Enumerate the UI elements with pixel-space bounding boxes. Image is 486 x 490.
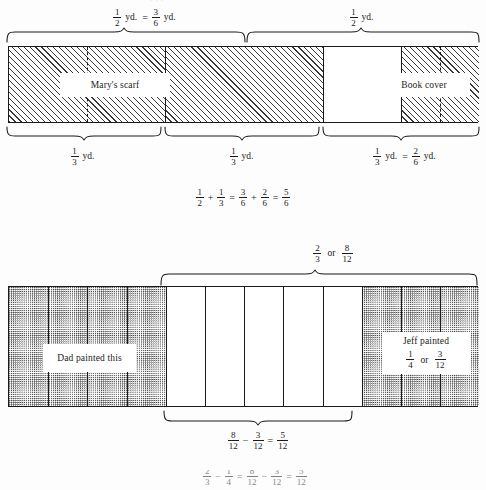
- fraction-one-third: 1 3: [71, 146, 79, 167]
- figure2-segment-middle-blank: [166, 287, 362, 406]
- equation-term-fraction: 512: [296, 470, 307, 487]
- fraction-one-half: 1 2: [350, 7, 358, 28]
- equation-term-fraction: 26: [261, 187, 269, 208]
- figure1-bottom-brace-2: [164, 127, 320, 140]
- fraction-one-third: 1 3: [373, 146, 381, 167]
- unit-yards: yd.: [359, 12, 376, 22]
- callout-dad-painted-this: Dad painted this: [43, 344, 136, 372]
- fraction-one-third: 1 3: [230, 146, 238, 167]
- equation-operator: +: [248, 192, 260, 203]
- callout-marys-scarf-text: Mary's scarf: [91, 80, 140, 90]
- clipped-top-text-row: · · ·: [0, 0, 486, 9]
- or-text: or: [322, 248, 340, 258]
- equation-operator: −: [259, 471, 271, 482]
- callout-dad-painted-this-text: Dad painted this: [57, 353, 122, 363]
- equation-term-fraction: 312: [253, 430, 264, 451]
- equation-term-fraction: 812: [247, 470, 258, 487]
- unit-yards: yd.: [122, 12, 139, 22]
- fraction-three-twelfths: 3 12: [435, 349, 446, 370]
- equation-operator: =: [234, 471, 246, 482]
- unit-yards: yd.: [382, 151, 399, 161]
- figure2-equation-clipped-row: 23 − 14 = 812 − 312 = 512: [0, 470, 486, 490]
- callout-jeff-painted-text: Jeff painted: [403, 336, 449, 346]
- equals-sign: =: [139, 12, 151, 23]
- equation-operator: −: [212, 471, 224, 482]
- equation-term-fraction: 13: [217, 187, 225, 208]
- equation-operator: −: [240, 435, 252, 446]
- figure2-divider-6: [244, 287, 245, 406]
- unit-yards: yd.: [239, 151, 256, 161]
- figure1-equation: 12 + 13 = 36 + 26 = 56: [143, 188, 343, 206]
- figure1-bottom-label-1: 1 3 yd.: [48, 148, 118, 164]
- figure1-top-label-half-equals-three-sixths: 1 2 yd. = 3 6 yd.: [70, 9, 220, 25]
- equation-term-fraction: 12: [196, 187, 204, 208]
- equation-operator: =: [283, 471, 295, 482]
- fraction-two-sixths: 2 6: [412, 146, 420, 167]
- fraction-one-fourth: 1 4: [406, 349, 414, 370]
- figure-page: · · · 1 2 yd. = 3 6 yd. 1 2 yd.: [0, 0, 486, 490]
- callout-marys-scarf: Mary's scarf: [60, 73, 170, 97]
- figure1-top-brace-right: [246, 28, 480, 42]
- equation-term-fraction: 312: [271, 470, 282, 487]
- equation-term-fraction: 23: [203, 470, 211, 487]
- fraction-three-sixths: 3 6: [152, 7, 160, 28]
- equation-term-fraction: 512: [277, 430, 288, 451]
- figure2-divider-7: [283, 287, 284, 406]
- or-text: or: [415, 355, 433, 365]
- equation-operator: =: [265, 435, 277, 446]
- equation-operator: =: [226, 192, 238, 203]
- unit-yards: yd.: [80, 151, 97, 161]
- callout-jeff-painted-fractions: 1 4 or 3 12: [405, 349, 446, 370]
- figure2-divider-5: [205, 287, 206, 406]
- callout-book-cover-text: Book cover: [401, 80, 447, 90]
- clipped-top-text: · · ·: [150, 0, 164, 5]
- figure2-divider-8: [323, 287, 324, 406]
- equation-term-fraction: 56: [282, 187, 290, 208]
- unit-yards: yd.: [421, 151, 438, 161]
- equation-term-fraction: 812: [228, 430, 239, 451]
- figure2-top-brace: [160, 270, 478, 285]
- equals-sign: =: [399, 151, 411, 162]
- equation-operator: =: [270, 192, 282, 203]
- figure1-top-brace-left: [6, 28, 246, 42]
- unit-yards: yd.: [161, 12, 178, 22]
- figure1-top-label-one-half: 1 2 yd.: [327, 9, 397, 25]
- figure1-bottom-brace-3: [322, 127, 480, 140]
- fraction-eight-twelfths: 8 12: [342, 243, 353, 264]
- figure2-divider-9: [362, 287, 363, 406]
- fraction-one-half: 1 2: [113, 7, 121, 28]
- figure2-bottom-brace: [163, 411, 353, 425]
- figure1-bottom-label-2: 1 3 yd.: [207, 148, 277, 164]
- figure2-brace-equation: 812 − 312 = 512: [178, 431, 338, 449]
- figure2-divider-4: [166, 287, 167, 406]
- fraction-two-thirds: 2 3: [313, 243, 321, 264]
- figure2-top-label: 2 3 or 8 12: [278, 245, 388, 261]
- equation-operator: +: [205, 192, 217, 203]
- equation-term-fraction: 36: [239, 187, 247, 208]
- figure1-bottom-label-3: 1 3 yd. = 2 6 yd.: [340, 148, 470, 164]
- callout-book-cover: Book cover: [378, 73, 470, 97]
- equation-term-fraction: 14: [225, 470, 233, 487]
- figure2-equation: 23 − 14 = 812 − 312 = 512: [150, 470, 360, 485]
- figure1-bottom-brace-1: [6, 127, 162, 140]
- callout-jeff-painted: Jeff painted 1 4 or 3 12: [382, 332, 470, 374]
- figure1-divider-solid-2: [323, 47, 324, 122]
